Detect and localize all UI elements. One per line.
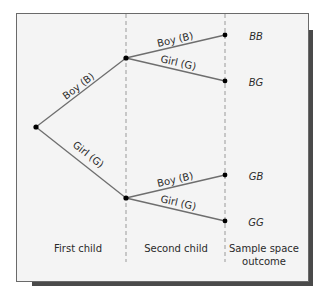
outcome-gb: GB [249, 171, 264, 182]
node-root [33, 124, 38, 129]
column-second-child: Second child [144, 243, 208, 254]
column-first-child: First child [54, 243, 102, 254]
column-outcome-line2: outcome [242, 256, 286, 267]
column-outcome-line1: Sample space [229, 243, 299, 254]
outcome-bg: BG [249, 77, 264, 88]
node-bg [223, 79, 228, 84]
outcome-gg: GG [248, 217, 264, 228]
node-boy [123, 55, 128, 60]
node-gb [223, 173, 228, 178]
node-girl [123, 195, 128, 200]
node-gg [223, 219, 228, 224]
node-bb [223, 33, 228, 38]
outcome-bb: BB [249, 31, 263, 42]
tree-diagram-canvas: Boy (B) Girl (G) Boy (B) Girl (G) Boy (B… [0, 0, 329, 302]
